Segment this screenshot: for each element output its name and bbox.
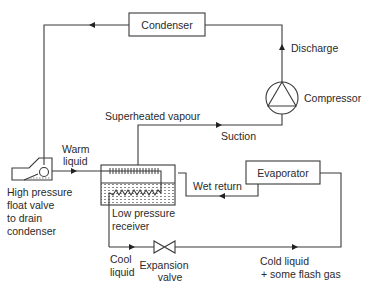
float-valve-label-1: High pressure — [7, 186, 73, 198]
compressor-icon — [266, 82, 298, 114]
flow-arrow-right-icon — [216, 122, 222, 128]
flow-arrow-left-icon — [219, 193, 225, 199]
flow-arrow-right-icon — [292, 244, 298, 250]
flow-arrow-right-icon — [129, 244, 135, 250]
wet-return-label: Wet return — [193, 180, 242, 192]
compressor-label: Compressor — [304, 92, 362, 104]
discharge-pipe: Discharge — [205, 25, 338, 82]
compressor: Compressor — [266, 82, 362, 114]
expansion-valve-icon — [154, 241, 175, 253]
cold-liquid-label-1: Cold liquid — [260, 255, 309, 267]
superheated-vapour-label: Superheated vapour — [105, 110, 201, 122]
flow-arrow-left-icon — [89, 22, 95, 28]
receiver-label-1: Low pressure — [112, 207, 175, 219]
suction-pipe: Superheated vapour Suction — [105, 110, 282, 165]
float-valve-label-2: float valve — [7, 199, 54, 211]
float-valve: High pressure float valve to drain conde… — [7, 158, 73, 237]
condenser: Condenser — [129, 13, 205, 36]
condenser-label: Condenser — [141, 19, 193, 31]
evaporator: Evaporator — [246, 161, 320, 184]
cool-liquid-label-1: Cool — [110, 253, 132, 265]
expansion-valve-label-2: valve — [158, 271, 183, 283]
cool-liquid-label-2: liquid — [110, 266, 135, 278]
evaporator-label: Evaporator — [257, 167, 309, 179]
expansion-valve-label-1: Expansion — [139, 259, 188, 271]
discharge-label: Discharge — [291, 42, 338, 54]
warm-liquid-label-2: liquid — [63, 155, 88, 167]
receiver-label-2: receiver — [112, 220, 150, 232]
warm-liquid-pipe: Warm liquid — [52, 143, 101, 174]
float-valve-label-3: to drain — [7, 212, 42, 224]
low-pressure-receiver: Low pressure receiver — [101, 165, 175, 247]
suction-label: Suction — [221, 130, 256, 142]
flow-arrow-right-icon — [71, 168, 77, 174]
refrigeration-diagram: Condenser Discharge Compressor Superheat… — [0, 0, 366, 287]
float-valve-label-4: condenser — [7, 225, 57, 237]
warm-liquid-label-1: Warm — [62, 143, 90, 155]
cold-liquid-label-2: + some flash gas — [261, 268, 341, 280]
flow-arrow-up-icon — [279, 44, 285, 50]
